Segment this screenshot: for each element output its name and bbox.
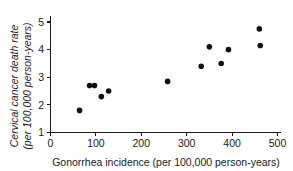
y-axis-ticks: 12345 — [38, 16, 50, 139]
x-tick-label: 100 — [87, 137, 105, 149]
x-tick-label: 0 — [48, 137, 54, 149]
data-point — [87, 83, 93, 89]
data-point — [226, 47, 232, 53]
y-tick-label: 4 — [38, 43, 44, 55]
data-point — [165, 79, 171, 85]
y-axis-title-line2: (per 100,000 person-years) — [21, 22, 33, 149]
x-tick-label: 300 — [178, 137, 196, 149]
chart-canvas: Cervical cancer death rate (per 100,000 … — [0, 0, 293, 171]
data-point — [77, 108, 83, 114]
data-point — [92, 83, 98, 89]
data-point — [207, 44, 213, 50]
data-points-layer — [77, 26, 263, 113]
y-tick-label: 3 — [38, 71, 44, 83]
y-axis-title-line1: Cervical cancer death rate — [8, 25, 20, 148]
data-point — [257, 43, 263, 49]
x-axis-ticks: 0100200300400500 — [48, 133, 287, 149]
axes — [51, 16, 282, 133]
x-tick-label: 400 — [223, 137, 241, 149]
y-tick-label: 5 — [38, 16, 44, 28]
x-tick-label: 500 — [269, 137, 287, 149]
data-point — [99, 94, 105, 100]
data-point — [198, 63, 204, 69]
y-tick-label: 1 — [38, 126, 44, 138]
y-axis-title: Cervical cancer death rate (per 100,000 … — [8, 22, 33, 149]
y-tick-label: 2 — [38, 99, 44, 111]
data-point — [257, 26, 263, 32]
scatter-plot-figure: Cervical cancer death rate (per 100,000 … — [0, 0, 293, 171]
x-axis-title: Gonorrhea incidence (per 100,000 person-… — [52, 156, 280, 168]
data-point — [218, 61, 224, 67]
x-tick-label: 200 — [133, 137, 151, 149]
data-point — [106, 88, 112, 94]
